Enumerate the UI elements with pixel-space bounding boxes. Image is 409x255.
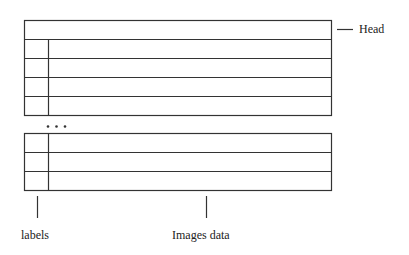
top-block-outline [25, 21, 332, 116]
images-data-label: Images data [172, 228, 230, 243]
ellipsis-dots [47, 125, 67, 128]
bottom-block-outline [25, 134, 332, 191]
data-structure-diagram [0, 0, 409, 255]
head-label: Head [359, 22, 384, 37]
labels-label: labels [21, 228, 49, 243]
